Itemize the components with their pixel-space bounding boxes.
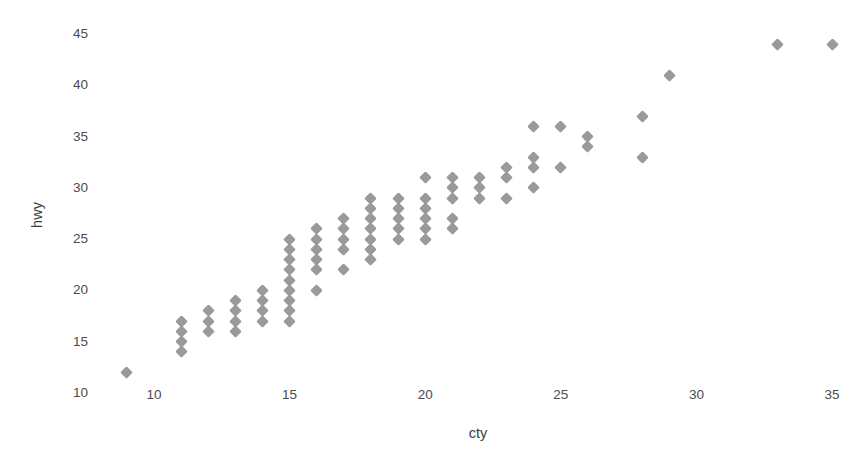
- y-tick-label: 35: [73, 130, 88, 144]
- data-point: [310, 264, 323, 277]
- data-point: [636, 110, 649, 123]
- data-point: [771, 38, 784, 51]
- data-point: [392, 233, 405, 246]
- data-point: [337, 264, 350, 277]
- data-point: [365, 253, 378, 266]
- data-point: [419, 233, 432, 246]
- data-point: [283, 315, 296, 328]
- x-axis-label: cty: [469, 425, 488, 441]
- data-point: [527, 181, 540, 194]
- x-tick-label: 35: [824, 388, 839, 402]
- x-tick-label: 30: [689, 388, 704, 402]
- data-point: [500, 192, 513, 205]
- data-point: [826, 38, 839, 51]
- data-point: [663, 69, 676, 82]
- data-point: [527, 161, 540, 174]
- y-tick-label: 25: [73, 232, 88, 246]
- y-tick-label: 15: [73, 335, 88, 349]
- x-tick-label: 20: [418, 388, 433, 402]
- data-point: [229, 325, 242, 338]
- data-point: [554, 161, 567, 174]
- x-tick-label: 10: [146, 388, 161, 402]
- data-point: [636, 151, 649, 164]
- data-point: [527, 120, 540, 133]
- data-point: [473, 192, 486, 205]
- plot-area: [0, 0, 868, 463]
- y-tick-label: 40: [73, 79, 88, 93]
- y-axis-label: hwy: [29, 202, 45, 228]
- data-point: [256, 315, 269, 328]
- data-point: [121, 366, 134, 379]
- data-point: [554, 120, 567, 133]
- y-tick-label: 30: [73, 181, 88, 195]
- data-point: [500, 171, 513, 184]
- data-point: [419, 171, 432, 184]
- data-point: [446, 223, 459, 236]
- scatter-plot-figure: cty hwy 1015202530354045101520253035: [0, 0, 868, 463]
- y-tick-label: 10: [73, 386, 88, 400]
- data-point: [202, 325, 215, 338]
- data-point: [337, 243, 350, 256]
- data-point: [582, 140, 595, 153]
- x-tick-label: 15: [282, 388, 297, 402]
- data-point: [446, 192, 459, 205]
- y-tick-label: 20: [73, 284, 88, 298]
- y-tick-label: 45: [73, 27, 88, 41]
- data-point: [310, 284, 323, 297]
- x-tick-label: 25: [553, 388, 568, 402]
- data-point: [175, 346, 188, 359]
